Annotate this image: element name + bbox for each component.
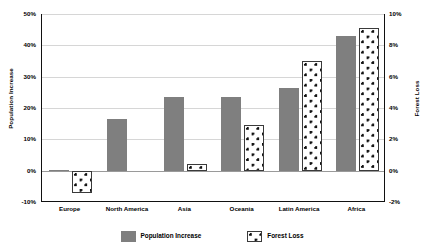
legend-item: Population Increase: [121, 231, 202, 242]
bar-population-increase: [221, 97, 241, 171]
y-tick-right: 6%: [389, 74, 398, 80]
y-axis-left-ticks: 50%40%30%20%10%0%-10%: [8, 0, 38, 252]
y-tick-right: 2%: [389, 136, 398, 142]
chart-legend: Population IncreaseForest Loss: [0, 231, 424, 242]
y-tick-right: 8%: [389, 42, 398, 48]
y-tick-right: 10%: [389, 11, 401, 17]
legend-label: Population Increase: [141, 233, 202, 239]
bar-forest-loss: [302, 61, 322, 171]
legend-label: Forest Loss: [267, 233, 303, 239]
x-axis-label: Africa: [316, 206, 396, 212]
bar-population-increase: [49, 170, 69, 171]
y-tick-right: 4%: [389, 105, 398, 111]
legend-swatch-icon: [247, 231, 262, 242]
bar-forest-loss: [359, 28, 379, 171]
bar-forest-loss: [244, 125, 264, 170]
bar-population-increase: [107, 119, 127, 171]
legend-swatch-icon: [121, 231, 136, 242]
bar-population-increase: [336, 36, 356, 171]
x-axis-category-labels: EuropeNorth AmericaAsiaOceaniaLatin Amer…: [41, 206, 385, 220]
y-tick-left: 0%: [27, 168, 36, 174]
y-tick-left: -10%: [22, 199, 36, 205]
y-axis-right-ticks: 10%8%6%4%2%0%-2%: [386, 0, 416, 252]
y-tick-left: 20%: [24, 105, 36, 111]
plot-area: [41, 14, 385, 202]
y-tick-left: 10%: [24, 136, 36, 142]
bar-forest-loss: [72, 171, 92, 193]
y-tick-right: -2%: [389, 199, 400, 205]
y-tick-left: 50%: [24, 11, 36, 17]
bar-population-increase: [164, 97, 184, 171]
bar-population-increase: [279, 88, 299, 171]
y-tick-right: 0%: [389, 168, 398, 174]
bar-forest-loss: [187, 164, 207, 170]
y-tick-left: 30%: [24, 74, 36, 80]
y-tick-left: 40%: [24, 42, 36, 48]
bar-group: [42, 14, 384, 201]
chart-container: Population Increase Forest Loss 50%40%30…: [0, 0, 424, 252]
legend-item: Forest Loss: [247, 231, 303, 242]
